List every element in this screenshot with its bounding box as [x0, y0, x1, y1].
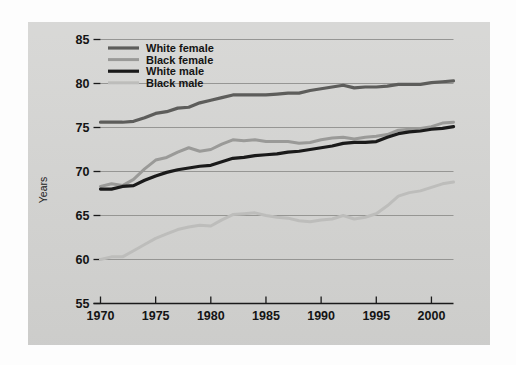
figure-root: 55606570758085 1970197519801985199019952… — [0, 0, 516, 365]
y-axis-title: Years — [37, 177, 49, 203]
y-tick-label-65: 65 — [76, 209, 90, 223]
x-tick-labels: 1970197519801985199019952000 — [87, 309, 446, 323]
y-tick-label-85: 85 — [76, 33, 90, 47]
chart-svg-container: 55606570758085 1970197519801985199019952… — [0, 0, 516, 365]
x-tick-label-1985: 1985 — [252, 309, 280, 323]
x-tick-label-1980: 1980 — [197, 309, 225, 323]
x-tick-label-1995: 1995 — [362, 309, 390, 323]
y-tick-label-75: 75 — [76, 121, 90, 135]
x-tick-label-2000: 2000 — [418, 309, 446, 323]
legend-label-black-female: Black female — [146, 54, 213, 66]
x-tick-marks — [101, 297, 432, 304]
series-lines — [101, 81, 454, 260]
y-tick-label-60: 60 — [76, 253, 90, 267]
chart-legend: White femaleBlack femaleWhite maleBlack … — [108, 42, 214, 89]
legend-label-white-male: White male — [146, 65, 204, 77]
y-tick-labels: 55606570758085 — [76, 33, 90, 311]
series-line-white-male — [101, 127, 454, 189]
y-tick-label-70: 70 — [76, 165, 90, 179]
series-line-black-male — [101, 182, 454, 259]
x-tick-label-1975: 1975 — [142, 309, 170, 323]
y-tick-marks — [94, 40, 101, 304]
legend-label-black-male: Black male — [146, 77, 203, 89]
y-axis-title-text: Years — [37, 177, 49, 203]
y-tick-label-80: 80 — [76, 77, 90, 91]
legend-label-white-female: White female — [146, 42, 214, 54]
x-tick-label-1990: 1990 — [307, 309, 335, 323]
life-expectancy-line-chart: 55606570758085 1970197519801985199019952… — [0, 0, 516, 365]
x-tick-label-1970: 1970 — [87, 309, 115, 323]
